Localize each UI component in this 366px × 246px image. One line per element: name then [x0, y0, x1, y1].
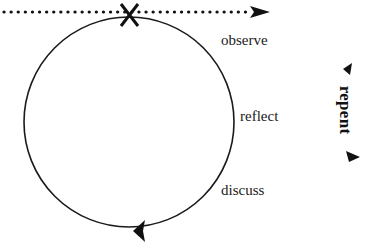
label-observe: observe — [221, 32, 268, 49]
cycle-diagram: observe reflect discuss repent — [0, 0, 366, 246]
repent-group: repent — [330, 66, 360, 166]
x-marker-icon — [121, 4, 138, 26]
label-repent: repent — [335, 86, 355, 135]
diagram-graphics — [0, 0, 366, 246]
label-discuss: discuss — [221, 182, 264, 199]
label-reflect: reflect — [240, 108, 278, 125]
cycle-direction-arrow-icon — [133, 220, 145, 242]
timeline-arrowhead-icon — [250, 6, 270, 18]
cycle-circle — [24, 17, 234, 227]
